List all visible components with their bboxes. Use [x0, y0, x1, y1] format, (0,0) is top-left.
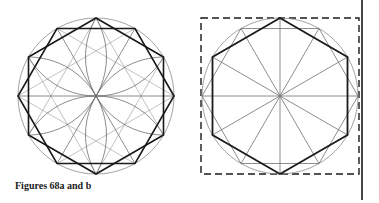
- construction-chord: [28, 18, 96, 135]
- construction-chord: [96, 57, 164, 174]
- construction-chord: [18, 96, 135, 164]
- construction-chord: [96, 18, 164, 135]
- construction-chord: [18, 28, 135, 96]
- construction-chord: [57, 96, 174, 164]
- petal-arc: [18, 0, 174, 96]
- construction-chord: [57, 28, 174, 96]
- figures-canvas: [0, 0, 379, 203]
- construction-chord: [28, 57, 96, 174]
- figure-caption: Figures 68a and b: [15, 180, 91, 191]
- figure-68b: [201, 18, 359, 174]
